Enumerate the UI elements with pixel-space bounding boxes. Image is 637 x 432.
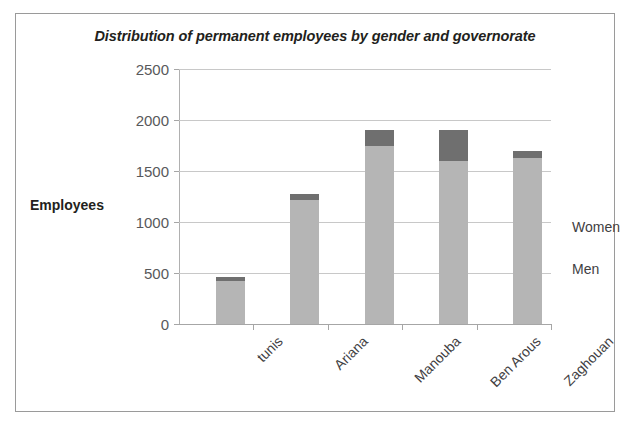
gridline (179, 120, 551, 121)
bar-manouba[interactable] (365, 130, 394, 324)
legend-entry-men: Men (572, 261, 599, 277)
plot-area: 05001000150020002500 tunisArianaManoubaB… (179, 69, 551, 324)
y-axis-tick (174, 273, 179, 274)
bar-segment-women[interactable] (365, 130, 394, 145)
chart-title: Distribution of permanent employees by g… (16, 28, 614, 44)
bar-ben-arous[interactable] (439, 130, 468, 324)
bar-segment-men[interactable] (365, 146, 394, 325)
x-axis-tick (551, 324, 552, 330)
x-axis-label-zaghouan: Zaghouan (560, 333, 616, 389)
bar-zaghouan[interactable] (513, 151, 542, 324)
bar-segment-men[interactable] (513, 158, 542, 324)
y-axis-tick-label: 1000 (136, 214, 169, 231)
x-axis-tick (402, 324, 403, 330)
y-axis-title: Employees (30, 197, 104, 213)
y-axis-tick (174, 324, 179, 325)
gridline (179, 324, 551, 325)
bar-segment-women[interactable] (439, 130, 468, 161)
x-axis-tick (253, 324, 254, 330)
y-axis-tick (174, 120, 179, 121)
y-axis-tick-label: 500 (144, 265, 169, 282)
y-axis-tick-label: 2000 (136, 112, 169, 129)
x-axis-label-ariana: Ariana (330, 333, 370, 373)
y-axis-tick-label: 1500 (136, 163, 169, 180)
x-axis-label-manouba: Manouba (411, 333, 464, 386)
bar-segment-women[interactable] (513, 151, 542, 158)
bar-ariana[interactable] (290, 194, 319, 324)
x-axis-tick (477, 324, 478, 330)
y-axis-tick (174, 222, 179, 223)
y-axis-tick (174, 171, 179, 172)
y-axis-tick-label: 2500 (136, 61, 169, 78)
bar-segment-men[interactable] (290, 200, 319, 324)
bar-segment-men[interactable] (216, 281, 245, 324)
x-axis-tick (328, 324, 329, 330)
chart-frame: Distribution of permanent employees by g… (15, 13, 615, 412)
y-axis-line (179, 69, 180, 324)
gridline (179, 69, 551, 70)
x-axis-label-tunis: tunis (253, 333, 285, 365)
y-axis-tick-label: 0 (161, 316, 169, 333)
x-axis-label-ben-arous: Ben Arous (486, 333, 543, 390)
bar-segment-men[interactable] (439, 161, 468, 324)
bar-tunis[interactable] (216, 277, 245, 324)
legend-entry-women: Women (572, 219, 620, 235)
y-axis-tick (174, 69, 179, 70)
